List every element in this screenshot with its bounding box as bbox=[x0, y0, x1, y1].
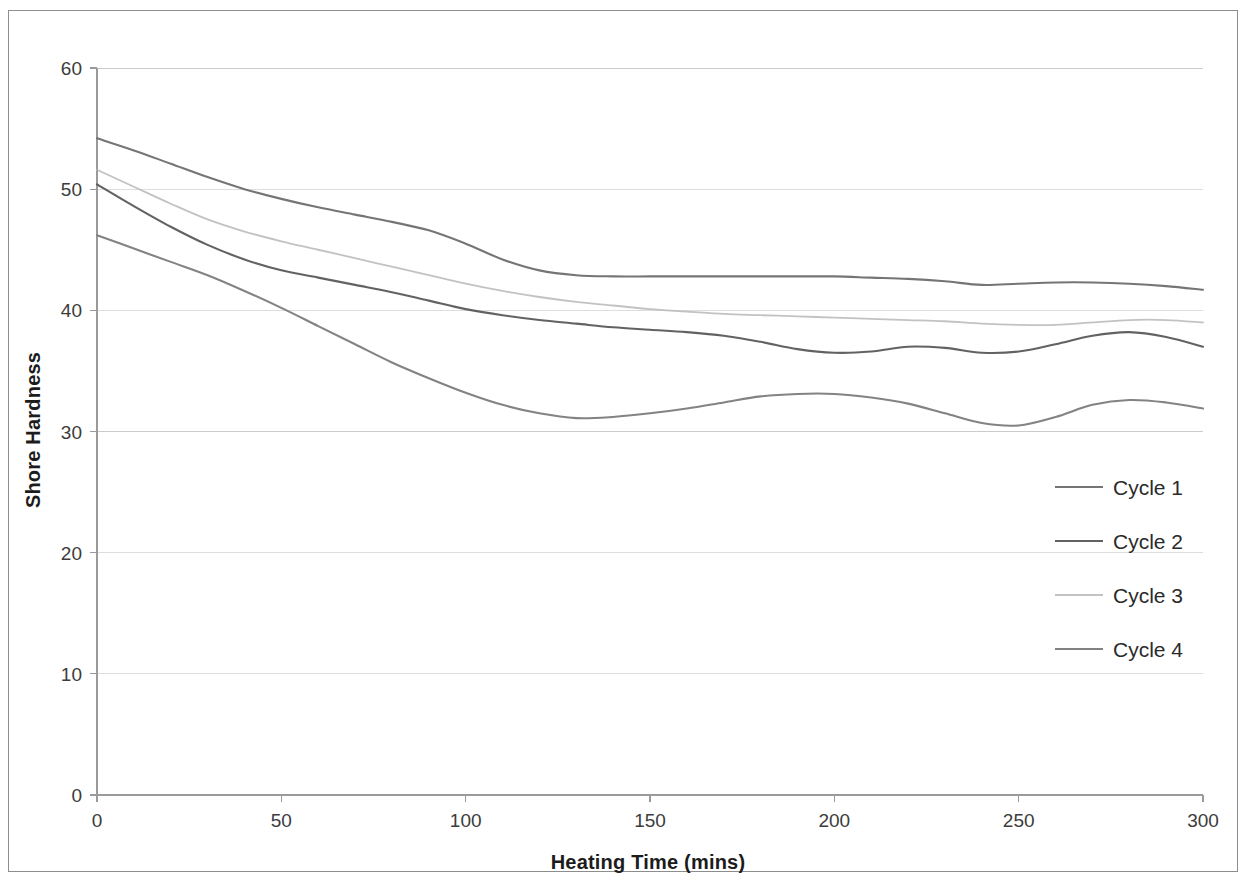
chart-figure: 0102030405060 050100150200250300 Cycle 1… bbox=[0, 0, 1248, 892]
y-tick-label-10: 10 bbox=[61, 664, 82, 685]
x-tick-label-300: 300 bbox=[1187, 810, 1219, 831]
x-tick-label-50: 50 bbox=[271, 810, 292, 831]
line-chart: 0102030405060 050100150200250300 Cycle 1… bbox=[0, 0, 1248, 892]
y-tick-labels: 0102030405060 bbox=[61, 58, 82, 806]
x-axis-title: Heating Time (mins) bbox=[551, 851, 746, 873]
legend-label-cycle-2: Cycle 2 bbox=[1113, 530, 1183, 553]
y-tick-label-30: 30 bbox=[61, 422, 82, 443]
x-tick-label-200: 200 bbox=[818, 810, 850, 831]
y-tick-label-20: 20 bbox=[61, 543, 82, 564]
y-tick-label-60: 60 bbox=[61, 58, 82, 79]
gridlines bbox=[97, 68, 1203, 795]
x-tick-label-0: 0 bbox=[92, 810, 103, 831]
y-tick-label-0: 0 bbox=[71, 785, 82, 806]
x-tick-labels: 050100150200250300 bbox=[92, 810, 1219, 831]
series-line-cycle-1 bbox=[97, 138, 1203, 289]
y-tick-label-50: 50 bbox=[61, 179, 82, 200]
chart-legend: Cycle 1Cycle 2Cycle 3Cycle 4 bbox=[1055, 476, 1183, 661]
series-line-cycle-3 bbox=[97, 170, 1203, 325]
x-tick-label-150: 150 bbox=[634, 810, 666, 831]
data-series bbox=[97, 138, 1203, 425]
legend-label-cycle-1: Cycle 1 bbox=[1113, 476, 1183, 499]
x-tick-label-250: 250 bbox=[1003, 810, 1035, 831]
y-axis-title: Shore Hardness bbox=[22, 352, 44, 508]
legend-label-cycle-3: Cycle 3 bbox=[1113, 584, 1183, 607]
tick-marks bbox=[90, 68, 1203, 802]
y-tick-label-40: 40 bbox=[61, 300, 82, 321]
series-line-cycle-2 bbox=[97, 184, 1203, 353]
x-tick-label-100: 100 bbox=[450, 810, 482, 831]
legend-label-cycle-4: Cycle 4 bbox=[1113, 638, 1183, 661]
